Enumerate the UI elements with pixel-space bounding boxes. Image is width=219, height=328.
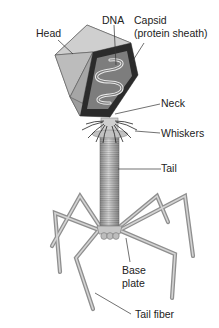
- tail-fibers-highlight: [52, 196, 193, 309]
- base-plate: [97, 226, 122, 239]
- label-head: Head: [36, 27, 61, 39]
- label-tail: Tail: [161, 162, 177, 174]
- bacteriophage-diagram: Head DNA Capsid (protein sheath) Neck Wh…: [0, 0, 219, 328]
- label-base-plate-2: plate: [122, 277, 145, 289]
- tail: [100, 134, 119, 226]
- label-base-plate-1: Base: [122, 264, 146, 276]
- label-neck: Neck: [161, 97, 186, 109]
- label-tail-fiber: Tail fiber: [135, 308, 175, 320]
- label-capsid: Capsid: [134, 14, 167, 26]
- label-capsid-sub: (protein sheath): [134, 27, 208, 39]
- label-whiskers: Whiskers: [161, 127, 204, 139]
- label-dna: DNA: [102, 14, 124, 26]
